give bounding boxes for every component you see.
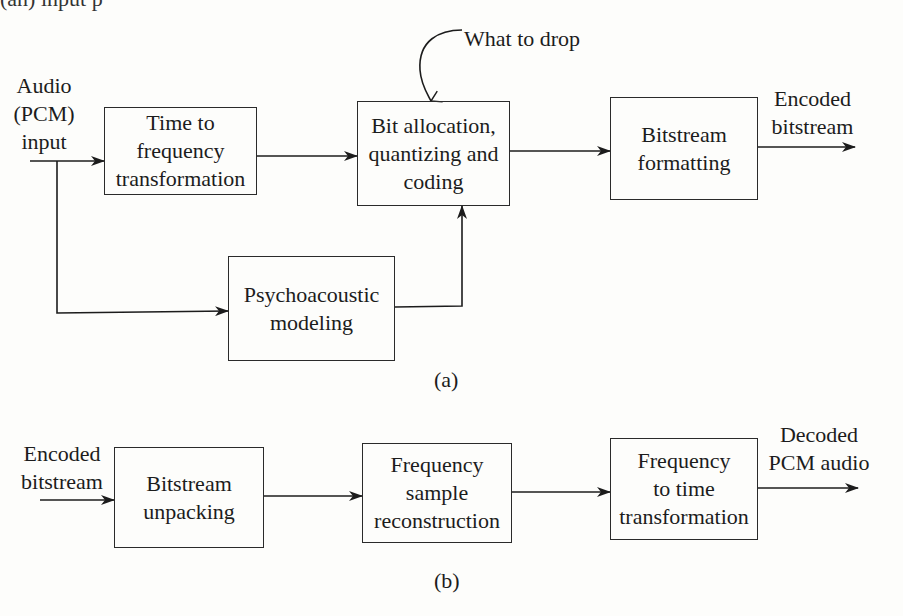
label-line: PCM audio bbox=[764, 449, 874, 477]
label-line: input bbox=[6, 128, 82, 156]
what-to-drop-annotation: What to drop bbox=[464, 25, 580, 53]
bit-allocation-block: Bit allocation, quantizing and coding bbox=[357, 101, 510, 206]
block-text: Psychoacoustic bbox=[244, 281, 380, 309]
block-text: Frequency bbox=[638, 447, 731, 475]
label-line: Audio bbox=[6, 72, 82, 100]
block-text: quantizing and bbox=[368, 140, 498, 168]
bitstream-formatting-block: Bitstream formatting bbox=[610, 97, 758, 200]
block-text: modeling bbox=[270, 309, 353, 337]
block-text: to time bbox=[653, 475, 715, 503]
block-text: reconstruction bbox=[374, 507, 500, 535]
figure-b-caption: (b) bbox=[434, 568, 460, 594]
frequency-to-time-block: Frequency to time transformation bbox=[610, 438, 758, 540]
encoded-bitstream-output-label: Encoded bitstream bbox=[765, 85, 860, 141]
label-line: bitstream bbox=[14, 468, 110, 496]
block-text: formatting bbox=[638, 149, 731, 177]
block-text: coding bbox=[404, 168, 464, 196]
audio-input-label: Audio (PCM) input bbox=[6, 72, 82, 156]
block-text: Frequency bbox=[391, 451, 484, 479]
block-text: transformation bbox=[619, 503, 749, 531]
figure-a-caption: (a) bbox=[434, 367, 458, 393]
encoded-bitstream-input-label: Encoded bitstream bbox=[14, 440, 110, 496]
label-line: Encoded bbox=[14, 440, 110, 468]
frequency-sample-reconstruction-block: Frequency sample reconstruction bbox=[362, 443, 512, 543]
block-text: unpacking bbox=[143, 498, 235, 526]
block-text: sample bbox=[406, 479, 468, 507]
block-text: Time to bbox=[146, 109, 214, 137]
time-to-frequency-block: Time to frequency transformation bbox=[104, 107, 257, 195]
label-line: bitstream bbox=[765, 113, 860, 141]
block-text: frequency bbox=[137, 137, 225, 165]
block-text: Bitstream bbox=[641, 121, 727, 149]
block-text: Bit allocation, bbox=[371, 112, 496, 140]
decoded-pcm-output-label: Decoded PCM audio bbox=[764, 421, 874, 477]
block-text: transformation bbox=[116, 165, 246, 193]
block-text: Bitstream bbox=[146, 470, 232, 498]
psychoacoustic-modeling-block: Psychoacoustic modeling bbox=[228, 256, 395, 361]
label-line: Decoded bbox=[764, 421, 874, 449]
bitstream-unpacking-block: Bitstream unpacking bbox=[114, 447, 264, 548]
label-line: (PCM) bbox=[6, 100, 82, 128]
label-line: Encoded bbox=[765, 85, 860, 113]
